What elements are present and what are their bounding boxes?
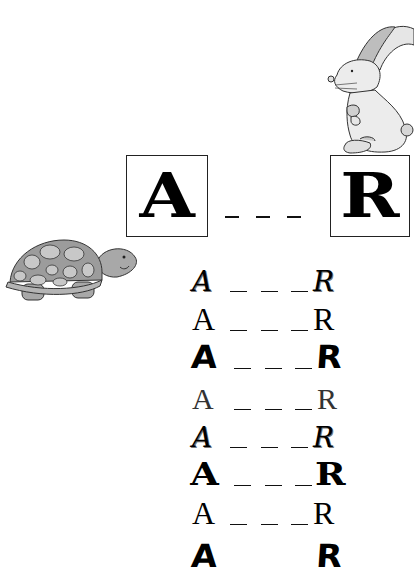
row-letter-r: R <box>315 341 343 373</box>
blank-line <box>261 330 278 332</box>
row-letter-a: A <box>192 303 215 335</box>
practice-row-7: A R <box>190 495 350 529</box>
blank-line <box>265 409 282 411</box>
blank-line <box>261 524 278 526</box>
practice-row-4: A R <box>190 380 350 414</box>
blank-line <box>295 368 312 370</box>
row-letter-a: A <box>192 497 215 529</box>
row-letter-a: A <box>190 458 219 490</box>
blank-line <box>234 368 251 370</box>
practice-row-2: A R <box>190 301 350 335</box>
blank-line <box>291 447 308 449</box>
row-letter-r: R <box>315 540 343 571</box>
row-letter-r: R <box>313 303 334 335</box>
blank-line <box>291 291 308 293</box>
blank-line-2 <box>256 216 270 218</box>
blank-line <box>230 291 247 293</box>
blank-line <box>291 330 308 332</box>
row-letter-a: A <box>190 540 218 571</box>
blank-line-3 <box>287 216 301 218</box>
practice-row-5: A R <box>190 418 350 452</box>
end-letter: R <box>340 165 399 227</box>
row-letter-r: R <box>317 384 337 414</box>
blank-line <box>261 291 278 293</box>
blank-line <box>291 524 308 526</box>
blank-line <box>265 368 282 370</box>
row-letter-a: A <box>192 384 214 414</box>
blank-line <box>230 330 247 332</box>
blank-line <box>230 524 247 526</box>
row-letter-a: A <box>192 268 212 296</box>
row-letter-a: A <box>190 341 218 373</box>
end-letter-box: R <box>330 155 410 237</box>
blank-line-1 <box>225 216 239 218</box>
blank-line <box>265 485 282 487</box>
blank-line <box>230 447 247 449</box>
start-letter: A <box>139 165 194 227</box>
blank-line <box>234 485 251 487</box>
row-letter-r: R <box>315 458 346 490</box>
blank-line <box>261 447 278 449</box>
row-letter-a: A <box>192 424 212 452</box>
practice-row-6: A R <box>190 456 350 490</box>
rabbit-icon <box>325 15 414 155</box>
row-letter-r: R <box>313 268 334 296</box>
blank-line <box>234 409 251 411</box>
start-letter-box: A <box>126 155 208 237</box>
blank-line <box>295 485 312 487</box>
practice-row-1: A R <box>190 262 350 296</box>
row-letter-r: R <box>313 424 334 452</box>
blank-line <box>295 409 312 411</box>
turtle-icon <box>2 232 142 307</box>
row-letter-r: R <box>313 497 334 529</box>
practice-row-8: A R <box>190 532 350 566</box>
practice-row-3: A R <box>190 339 350 373</box>
